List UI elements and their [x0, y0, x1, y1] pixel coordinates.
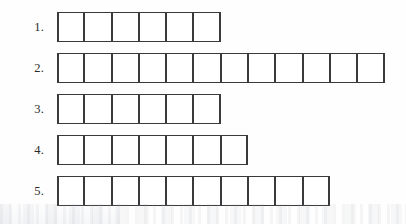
answer-box[interactable] — [84, 53, 111, 83]
answer-box[interactable] — [139, 12, 166, 42]
answer-box[interactable] — [166, 135, 193, 165]
box-strip — [57, 12, 221, 42]
answer-box[interactable] — [248, 176, 275, 206]
answer-box[interactable] — [275, 176, 302, 206]
row-number-label: 3. — [0, 94, 44, 124]
answer-box[interactable] — [57, 53, 84, 83]
answer-box[interactable] — [330, 53, 357, 83]
answer-box[interactable] — [84, 94, 111, 124]
answer-box[interactable] — [166, 94, 193, 124]
box-strip — [57, 53, 385, 83]
answer-box[interactable] — [193, 94, 220, 124]
row-number-label: 2. — [0, 53, 44, 83]
answer-box[interactable] — [84, 135, 111, 165]
answer-box[interactable] — [57, 12, 84, 42]
answer-box[interactable] — [166, 12, 193, 42]
answer-box[interactable] — [221, 135, 248, 165]
answer-box[interactable] — [112, 53, 139, 83]
answer-box[interactable] — [166, 53, 193, 83]
answer-box[interactable] — [193, 53, 220, 83]
answer-box[interactable] — [139, 176, 166, 206]
answer-box[interactable] — [84, 12, 111, 42]
row-number-label: 1. — [0, 12, 44, 42]
answer-box[interactable] — [357, 53, 384, 83]
box-strip — [57, 135, 248, 165]
answer-box[interactable] — [166, 176, 193, 206]
answer-box[interactable] — [303, 53, 330, 83]
answer-box[interactable] — [57, 94, 84, 124]
row-number-label: 5. — [0, 176, 44, 206]
worksheet-row: 4. — [0, 135, 406, 165]
worksheet-row: 5. — [0, 176, 406, 206]
answer-box[interactable] — [57, 176, 84, 206]
answer-box[interactable] — [57, 135, 84, 165]
answer-box[interactable] — [139, 94, 166, 124]
answer-box[interactable] — [112, 176, 139, 206]
answer-box[interactable] — [84, 176, 111, 206]
answer-box[interactable] — [275, 53, 302, 83]
answer-box[interactable] — [221, 53, 248, 83]
answer-box[interactable] — [139, 53, 166, 83]
box-strip — [57, 176, 330, 206]
answer-box[interactable] — [248, 53, 275, 83]
answer-box[interactable] — [193, 135, 220, 165]
worksheet-row: 2. — [0, 53, 406, 83]
answer-box[interactable] — [139, 135, 166, 165]
answer-box[interactable] — [221, 176, 248, 206]
answer-box[interactable] — [112, 94, 139, 124]
worksheet-page: 1.2.3.4.5. — [0, 0, 406, 224]
answer-box[interactable] — [193, 12, 220, 42]
row-number-label: 4. — [0, 135, 44, 165]
answer-box[interactable] — [193, 176, 220, 206]
scan-artifact-band — [0, 204, 406, 224]
worksheet-row: 3. — [0, 94, 406, 124]
box-strip — [57, 94, 221, 124]
answer-box[interactable] — [112, 12, 139, 42]
answer-box[interactable] — [303, 176, 330, 206]
answer-box[interactable] — [112, 135, 139, 165]
worksheet-row: 1. — [0, 12, 406, 42]
